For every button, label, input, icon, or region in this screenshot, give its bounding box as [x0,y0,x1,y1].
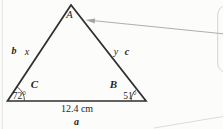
geometry-figure: A C B 72° 51° b x y c 12.4 cm a [0,0,223,129]
side-x-label: x [24,46,30,57]
base-measure-label: 12.4 cm [61,103,93,114]
side-b-label: b [12,45,17,56]
side-c-label: c [125,46,130,57]
angle-value-bottom-left: 72° [13,91,27,101]
vertex-c-label: C [31,78,39,90]
callout-arrow-line [95,21,224,34]
vertex-a-label: A [65,9,73,20]
triangle-figure-svg: A C B 72° 51° b x y c 12.4 cm a [0,0,223,129]
side-y-label: y [113,46,119,57]
vertex-b-label: B [109,78,117,90]
side-a-label: a [74,116,79,127]
callout-arrow-head-icon [86,18,96,23]
callout-line-bottom [154,117,223,129]
callout-bubble-edge [218,7,223,72]
angle-value-bottom-right: 51° [123,91,137,101]
